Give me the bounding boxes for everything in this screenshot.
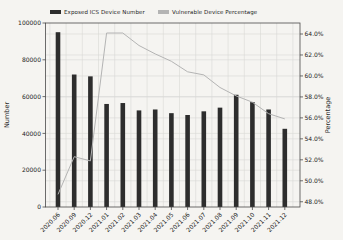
- bar-2021.12: [283, 129, 288, 207]
- bar-series-swatch: [50, 10, 61, 14]
- bar-2021.01: [104, 104, 109, 207]
- bar-2021.09: [234, 95, 239, 207]
- bar-2021.05: [169, 113, 174, 207]
- right-tick-label: 56.0%: [305, 114, 324, 121]
- left-tick-label: 80000: [22, 56, 41, 63]
- right-tick-label: 64.0%: [305, 30, 324, 37]
- legend-item-vulnerable-device-percentage: Vulnerable Device Percentage: [158, 9, 257, 15]
- bar-2021.10: [250, 102, 255, 207]
- right-axis-title: Percentage: [324, 85, 332, 145]
- chart-legend: Exposed ICS Device Number Vulnerable Dev…: [50, 9, 257, 15]
- plot-canvas: 02000040000600008000010000048.0%50.0%52.…: [0, 0, 343, 240]
- bar-2021.07: [202, 111, 207, 207]
- left-tick-label: 20000: [22, 166, 41, 173]
- bar-2020.09: [72, 75, 77, 207]
- bar-2021.03: [137, 110, 142, 207]
- chart-figure: Exposed ICS Device Number Vulnerable Dev…: [0, 0, 343, 240]
- bar-2020.12: [88, 76, 93, 207]
- bar-2020.06: [56, 32, 61, 207]
- legend-item-exposed-ics-device-number: Exposed ICS Device Number: [50, 9, 145, 15]
- bar-2021.04: [153, 109, 158, 207]
- bar-2021.06: [185, 115, 190, 207]
- left-tick-label: 100000: [18, 19, 41, 26]
- legend-label-vulnerable-device-percentage: Vulnerable Device Percentage: [172, 9, 257, 15]
- right-tick-label: 52.0%: [305, 156, 324, 163]
- right-tick-label: 50.0%: [305, 177, 324, 184]
- bar-2021.11: [266, 109, 271, 207]
- bar-2021.08: [218, 108, 223, 207]
- right-tick-label: 62.0%: [305, 51, 324, 58]
- legend-label-exposed-ics-device-number: Exposed ICS Device Number: [64, 9, 145, 15]
- line-series-swatch: [158, 10, 169, 14]
- bar-2021.02: [121, 103, 126, 207]
- left-tick-label: 40000: [22, 130, 41, 137]
- left-tick-label: 60000: [22, 93, 41, 100]
- right-tick-label: 54.0%: [305, 135, 324, 142]
- right-tick-label: 48.0%: [305, 198, 324, 205]
- left-tick-label: 0: [37, 203, 41, 210]
- left-axis-title: Number: [3, 85, 11, 145]
- right-tick-label: 58.0%: [305, 93, 324, 100]
- right-tick-label: 60.0%: [305, 72, 324, 79]
